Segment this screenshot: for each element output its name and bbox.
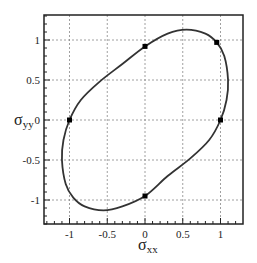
x-tick-label: -1 [65, 228, 74, 240]
y-tick-label: 0.5 [26, 74, 40, 86]
stress-ellipse-chart: -1-0.500.51 10.50-0.5-1 σxx σyy [0, 0, 257, 263]
y-tick-label: -1 [31, 194, 40, 206]
square-marker [143, 44, 148, 49]
y-axis-label-sub: yy [23, 118, 35, 130]
square-marker [214, 40, 219, 45]
x-tick-label: -0.5 [99, 228, 117, 240]
square-marker [67, 118, 72, 123]
x-tick-label: 1 [218, 228, 224, 240]
square-marker [143, 194, 148, 199]
x-axis-label-sub: xx [147, 243, 159, 255]
x-tick-label: 0.5 [176, 228, 190, 240]
y-tick-label: -0.5 [23, 154, 41, 166]
y-tick-label: 1 [35, 34, 41, 46]
y-axis-label: σyy [14, 111, 34, 130]
y-tick-label: 0 [35, 114, 41, 126]
x-axis-label: σxx [138, 236, 158, 255]
square-marker [218, 118, 223, 123]
